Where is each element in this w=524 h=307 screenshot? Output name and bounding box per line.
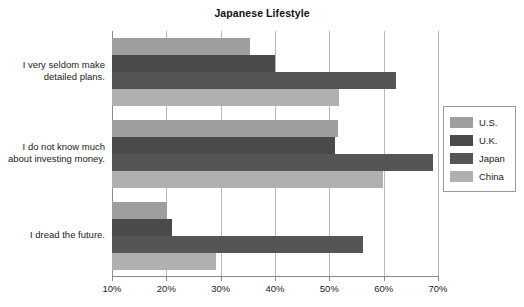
category-label-2: I dread the future. bbox=[0, 229, 105, 242]
bar-chart: Japanese Lifestyle I very seldom makedet… bbox=[0, 0, 524, 307]
x-axis-tick-mark bbox=[384, 277, 385, 281]
legend-item-uk[interactable]: U.K. bbox=[450, 131, 510, 149]
legend-item-japan[interactable]: Japan bbox=[450, 149, 510, 167]
bar-japan-1 bbox=[112, 154, 433, 171]
category-label-line: about investing money. bbox=[0, 153, 105, 166]
x-axis-tick-label: 70% bbox=[418, 283, 458, 294]
bar-china-1 bbox=[112, 171, 383, 188]
bar-japan-0 bbox=[112, 72, 396, 89]
x-axis-tick-label: 50% bbox=[309, 283, 349, 294]
bar-us-2 bbox=[112, 202, 167, 219]
legend-item-us[interactable]: U.S. bbox=[450, 113, 510, 131]
plot-area bbox=[112, 31, 438, 277]
bar-japan-2 bbox=[112, 236, 363, 253]
legend-label: U.S. bbox=[479, 117, 497, 128]
x-axis-tick-mark bbox=[112, 277, 113, 281]
bar-uk-0 bbox=[112, 55, 275, 72]
category-label-line: I dread the future. bbox=[0, 229, 105, 242]
x-axis-tick-mark bbox=[329, 277, 330, 281]
legend-swatch-icon bbox=[450, 135, 473, 146]
legend-label: Japan bbox=[479, 153, 505, 164]
gridline bbox=[438, 31, 439, 277]
x-axis-tick-mark bbox=[221, 277, 222, 281]
bar-china-0 bbox=[112, 89, 339, 106]
legend-item-china[interactable]: China bbox=[450, 167, 510, 185]
legend: U.S.U.K.JapanChina bbox=[443, 106, 516, 192]
legend-swatch-icon bbox=[450, 153, 473, 164]
x-axis-tick-label: 20% bbox=[146, 283, 186, 294]
bar-china-2 bbox=[112, 253, 216, 270]
category-label-0: I very seldom makedetailed plans. bbox=[0, 59, 105, 84]
x-axis-tick-mark bbox=[166, 277, 167, 281]
legend-label: China bbox=[479, 171, 504, 182]
bar-us-0 bbox=[112, 38, 250, 55]
category-label-1: I do not know muchabout investing money. bbox=[0, 141, 105, 166]
category-label-line: I do not know much bbox=[0, 141, 105, 154]
legend-label: U.K. bbox=[479, 135, 497, 146]
bar-uk-1 bbox=[112, 137, 335, 154]
x-axis-tick-label: 40% bbox=[255, 283, 295, 294]
chart-title: Japanese Lifestyle bbox=[0, 7, 524, 19]
bar-us-1 bbox=[112, 120, 338, 137]
x-axis-tick-label: 10% bbox=[92, 283, 132, 294]
x-axis-tick-label: 30% bbox=[201, 283, 241, 294]
legend-swatch-icon bbox=[450, 171, 473, 182]
x-axis-tick-mark bbox=[275, 277, 276, 281]
category-label-line: detailed plans. bbox=[0, 71, 105, 84]
x-axis-tick-mark bbox=[438, 277, 439, 281]
category-label-line: I very seldom make bbox=[0, 59, 105, 72]
x-axis-tick-label: 60% bbox=[364, 283, 404, 294]
bar-uk-2 bbox=[112, 219, 172, 236]
legend-swatch-icon bbox=[450, 117, 473, 128]
